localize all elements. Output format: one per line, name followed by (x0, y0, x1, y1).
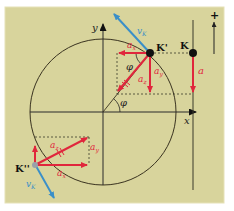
angle-label-kprime: φ (126, 61, 133, 72)
y-axis-label: y (91, 22, 98, 33)
point-k (189, 49, 197, 57)
point-k-prime-label: K' (156, 42, 168, 53)
diagram-background (5, 7, 224, 203)
point-k-double-prime (32, 162, 38, 168)
point-k-label: K (180, 40, 189, 51)
point-k-double-prime-label: K'' (15, 163, 30, 174)
angle-label-origin: φ (120, 97, 127, 108)
circular-motion-diagram: y x + φ φ vK vK ax az ay a az ay ax K' K… (0, 0, 234, 211)
a-label-right: a (198, 65, 204, 76)
point-k-prime (146, 49, 154, 57)
direction-plus: + (210, 9, 219, 22)
x-axis-label: x (184, 115, 190, 126)
